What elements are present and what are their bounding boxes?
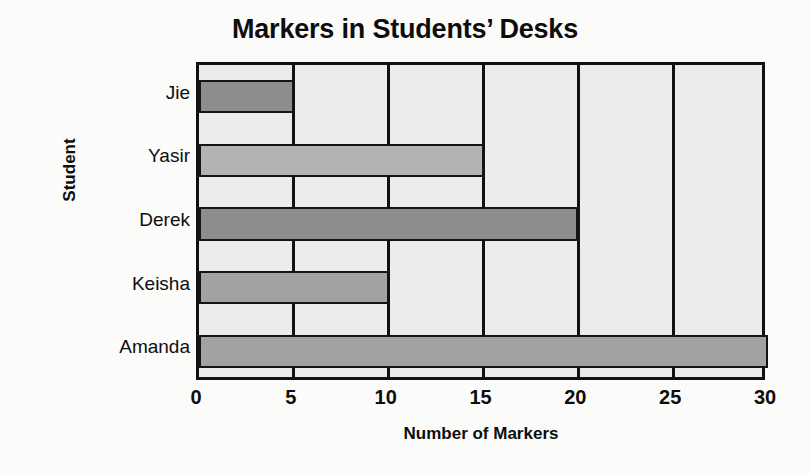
y-tick-label-keisha: Keisha — [50, 273, 190, 295]
x-tick-label-5: 5 — [261, 386, 321, 409]
y-tick-label-amanda: Amanda — [50, 336, 190, 358]
bars-layer — [199, 65, 762, 377]
y-tick-label-derek: Derek — [50, 209, 190, 231]
bar-yasir — [199, 144, 484, 177]
y-tick-label-yasir: Yasir — [50, 145, 190, 167]
plot-area — [196, 62, 765, 380]
bar-keisha — [199, 271, 389, 304]
x-tick-label-30: 30 — [735, 386, 795, 409]
chart-title: Markers in Students’ Desks — [0, 14, 810, 45]
y-tick-label-jie: Jie — [50, 82, 190, 104]
x-axis-title: Number of Markers — [196, 424, 766, 444]
x-tick-label-25: 25 — [640, 386, 700, 409]
x-tick-label-15: 15 — [451, 386, 511, 409]
y-axis-tick-labels: JieYasirDerekKeishaAmanda — [44, 62, 190, 380]
x-tick-label-0: 0 — [166, 386, 226, 409]
x-tick-label-10: 10 — [356, 386, 416, 409]
x-tick-label-20: 20 — [545, 386, 605, 409]
bar-amanda — [199, 335, 768, 368]
bar-derek — [199, 207, 578, 240]
x-axis-tick-labels: 051015202530 — [196, 386, 765, 416]
bar-jie — [199, 80, 294, 113]
bar-chart-figure: Markers in Students’ Desks Student JieYa… — [0, 0, 810, 474]
